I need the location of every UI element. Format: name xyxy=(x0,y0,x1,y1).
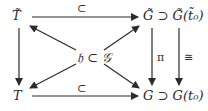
arrow-center-to-top-left xyxy=(30,26,76,50)
node-bottom-left: T xyxy=(13,89,22,102)
node-center: 𝔥 ⊂ 𝒢 xyxy=(77,51,111,64)
commutative-diagram: T̃ T G̃ ⊃ G̃(t̃₀) G ⊃ G(t₀) 𝔥 ⊂ 𝒢 ⊂ ⊂ π … xyxy=(0,0,208,111)
arrow-center-to-bottom-left xyxy=(30,64,76,88)
label-right-vertical-iso: ≅ xyxy=(184,52,193,63)
label-right-vertical-pi: π xyxy=(157,52,164,63)
label-bottom-horizontal: ⊂ xyxy=(77,83,86,94)
label-top-horizontal: ⊂ xyxy=(77,3,86,14)
node-top-left: T̃ xyxy=(12,9,21,22)
node-bottom-right: G ⊃ G(t₀) xyxy=(143,89,204,102)
node-top-right: G̃ ⊃ G̃(t̃₀) xyxy=(143,9,204,22)
arrow-center-to-top-right xyxy=(104,26,139,50)
arrow-center-to-bottom-right xyxy=(104,64,139,88)
